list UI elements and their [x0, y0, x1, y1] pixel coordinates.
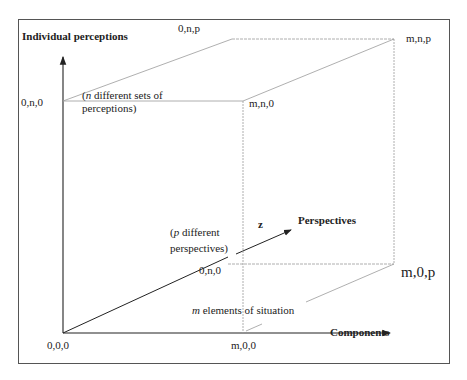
- vertex-mn0: m,n,0: [249, 97, 274, 110]
- y-axis-label: Individual perceptions: [22, 30, 128, 43]
- vertex-0n0-inner: 0,n,0: [199, 264, 221, 277]
- vertex-m00: m,0,0: [231, 339, 256, 352]
- z-annotation-line2: perspectives): [170, 242, 228, 255]
- vertex-0np: 0,n,p: [178, 22, 200, 35]
- z-annotation-line1: (p different: [170, 226, 220, 239]
- y-annotation-line2: perceptions): [82, 102, 136, 115]
- cube-edges: [63, 39, 394, 333]
- vertex-origin: 0,0,0: [47, 339, 69, 352]
- x-annotation: m elements of situation: [192, 304, 294, 317]
- vertex-mnp: m,n,p: [406, 32, 431, 45]
- x-axis-label: Components: [330, 326, 389, 339]
- vertex-0n0: 0,n,0: [21, 96, 43, 109]
- z-axis-upper: [236, 230, 291, 254]
- vertex-m0p: m,0,p: [401, 264, 435, 281]
- y-annotation-line1: (n different sets of: [82, 89, 163, 102]
- z-axis-label: Perspectives: [298, 214, 356, 227]
- cube-diagram: [0, 0, 467, 380]
- z-axis-symbol: z: [258, 218, 263, 231]
